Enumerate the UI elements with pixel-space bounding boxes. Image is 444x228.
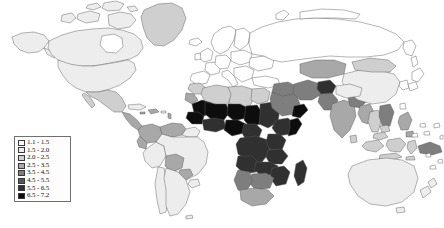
region-pacific-islands-e — [430, 165, 436, 169]
region-alaska — [12, 32, 49, 53]
fertility-rate-legend: 1.1 - 1.5 1.5 - 2.0 2.0 - 2.5 2.5 - 3.5 … — [14, 136, 71, 202]
region-pacific-islands-c — [412, 133, 418, 137]
region-borneo — [386, 138, 406, 152]
region-british-isles — [199, 48, 213, 62]
region-central-america — [122, 112, 142, 130]
region-siberia-north — [300, 9, 360, 19]
region-yemen-oman — [292, 104, 308, 118]
region-balkans — [234, 66, 254, 82]
region-new-zealand-north — [428, 178, 437, 188]
legend-swatch — [18, 147, 25, 153]
region-cuba — [128, 104, 146, 110]
legend-swatch — [18, 178, 25, 184]
region-pacific-islands-h — [426, 153, 431, 157]
region-scandinavia — [211, 26, 236, 54]
region-uruguay — [188, 179, 200, 188]
region-malaysia — [373, 132, 388, 140]
region-south-africa — [240, 188, 274, 206]
region-mali — [205, 102, 230, 120]
region-finland — [234, 28, 250, 50]
world-map-figure: 1.1 - 1.5 1.5 - 2.0 2.0 - 2.5 2.5 - 3.5 … — [0, 0, 444, 228]
legend-label: 6.5 - 7.2 — [27, 192, 49, 200]
legend-swatch — [18, 155, 25, 161]
legend-row: 6.5 - 7.2 — [18, 192, 68, 200]
region-puerto-rico — [161, 111, 166, 113]
region-korea — [399, 80, 409, 90]
region-lesser-antilles — [168, 113, 171, 119]
region-timor — [406, 156, 415, 160]
region-jamaica — [140, 112, 145, 114]
region-novaya-zemlya — [276, 10, 289, 20]
region-sri-lanka — [350, 135, 357, 143]
region-taiwan — [400, 103, 406, 109]
region-somalia — [288, 118, 302, 136]
region-pacific-islands-b — [434, 123, 440, 128]
region-banks-island — [61, 13, 76, 23]
region-hispaniola — [148, 109, 159, 114]
region-uganda-kenya — [266, 134, 286, 150]
region-pacific-islands-g — [440, 135, 443, 139]
region-egypt — [251, 88, 270, 104]
region-pacific-islands-f — [420, 123, 426, 127]
region-ireland — [195, 53, 201, 60]
region-sakhalin — [411, 56, 418, 67]
region-mozambique — [270, 166, 290, 186]
region-pacific-islands-d — [438, 159, 443, 163]
legend-swatch — [18, 163, 25, 169]
legend-swatch — [18, 193, 25, 199]
region-greenland — [141, 3, 186, 46]
region-madagascar — [294, 160, 307, 186]
region-russia — [249, 18, 404, 62]
region-australia — [348, 158, 418, 206]
region-sulawesi — [407, 140, 417, 154]
region-tanzania — [266, 149, 288, 164]
region-afghanistan — [317, 80, 336, 95]
region-poland-baltic — [231, 50, 252, 65]
region-ellesmere-island — [102, 1, 124, 11]
region-japan — [412, 68, 424, 82]
region-iceland — [189, 38, 202, 46]
region-sumatra — [362, 140, 384, 152]
region-kamchatka — [403, 40, 416, 56]
legend-swatch — [18, 170, 25, 176]
region-victoria-island — [77, 11, 100, 23]
region-laos-vietnam — [379, 104, 394, 128]
region-baffin-island — [108, 12, 136, 29]
legend-swatch — [18, 185, 25, 191]
legend-swatch — [18, 140, 25, 146]
region-tasmania — [396, 207, 405, 213]
region-new-zealand-south — [420, 186, 431, 198]
region-mongolia — [352, 58, 396, 72]
region-arctic-islet-a — [86, 3, 101, 10]
region-central-asia — [300, 60, 346, 78]
region-philippines — [398, 112, 412, 130]
region-cambodia — [380, 125, 390, 133]
region-ivory-ghana — [202, 118, 226, 132]
region-japan-south — [408, 82, 418, 91]
region-pacific-islands-a — [424, 131, 430, 135]
region-falklands — [186, 215, 193, 219]
region-arctic-islet-b — [127, 6, 138, 12]
